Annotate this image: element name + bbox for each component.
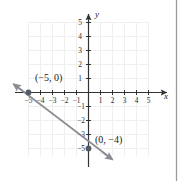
- y-tick-label: 4: [78, 32, 82, 41]
- y-tick-label: 3: [78, 46, 82, 55]
- x-tick-label: 4: [135, 96, 139, 105]
- x-tick-label: 3: [123, 96, 127, 105]
- graph-figure: −5 −4 −3 −2 −1 1 2 3 4 5 5 4 3 2 1 −1 −2…: [0, 0, 181, 181]
- line-arrow-upper-left: [13, 84, 22, 91]
- y-tick-label: −5: [77, 144, 85, 153]
- y-tick-label: 5: [78, 18, 82, 27]
- point-marker-x-intercept: [26, 90, 32, 96]
- point-label-y-intercept: (0, −4): [95, 134, 122, 146]
- x-tick-labels: −5 −4 −3 −2 −1 1 2 3 4 5: [25, 96, 151, 105]
- point-marker-y-intercept: [86, 146, 92, 152]
- y-tick-label: −1: [77, 102, 85, 111]
- x-tick-label: −3: [49, 96, 57, 105]
- x-tick-label: 2: [111, 96, 115, 105]
- coordinate-plane-svg: −5 −4 −3 −2 −1 1 2 3 4 5 5 4 3 2 1 −1 −2…: [0, 0, 181, 181]
- x-axis-label: x: [163, 91, 168, 101]
- y-axis-label: y: [94, 9, 99, 19]
- y-tick-label: −2: [77, 116, 85, 125]
- line-arrow-lower-right: [102, 152, 113, 160]
- point-label-x-intercept: (−5, 0): [35, 72, 62, 84]
- x-tick-label: 5: [147, 96, 151, 105]
- y-tick-label: 1: [78, 74, 82, 83]
- x-tick-label: −2: [61, 96, 69, 105]
- y-tick-label: 2: [78, 60, 82, 69]
- x-tick-label: 1: [99, 96, 103, 105]
